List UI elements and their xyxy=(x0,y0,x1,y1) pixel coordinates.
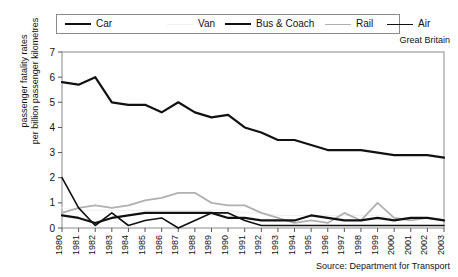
x-tick-label: 2001 xyxy=(403,235,413,255)
series-line-air xyxy=(62,178,444,228)
x-tick-label: 1991 xyxy=(237,235,247,255)
x-tick-label: 1986 xyxy=(154,235,164,255)
x-tick-label: 1985 xyxy=(137,235,147,255)
x-tick-label: 1987 xyxy=(170,235,180,255)
y-tick-label: 1 xyxy=(49,197,55,208)
x-tick-label: 2003 xyxy=(436,235,446,255)
fatality-rates-chart: CarVanBus & CoachRailAir Great Britain p… xyxy=(0,0,458,277)
x-tick-label: 1995 xyxy=(303,235,313,255)
x-tick-label: 1997 xyxy=(336,235,346,255)
x-tick-label: 1988 xyxy=(187,235,197,255)
x-tick-label: 1992 xyxy=(253,235,263,255)
source-annotation: Source: Department for Transport xyxy=(316,261,450,271)
x-tick-label: 1980 xyxy=(54,235,64,255)
x-tick-label: 2002 xyxy=(419,235,429,255)
x-tick-label: 1990 xyxy=(220,235,230,255)
y-tick-label: 2 xyxy=(49,172,55,183)
x-tick-label: 1981 xyxy=(71,235,81,255)
y-tick-label: 7 xyxy=(49,47,55,58)
x-tick-label: 1993 xyxy=(270,235,280,255)
plot-area: 0123456719801981198219831984198519861987… xyxy=(0,0,458,277)
x-tick-label: 1982 xyxy=(87,235,97,255)
series-line-car xyxy=(62,77,444,157)
x-tick-label: 1998 xyxy=(353,235,363,255)
x-tick-label: 1999 xyxy=(370,235,380,255)
x-tick-label: 2000 xyxy=(386,235,396,255)
y-tick-label: 4 xyxy=(49,122,55,133)
y-tick-label: 5 xyxy=(49,97,55,108)
x-tick-label: 1996 xyxy=(320,235,330,255)
x-tick-label: 1983 xyxy=(104,235,114,255)
x-tick-label: 1989 xyxy=(203,235,213,255)
y-tick-label: 6 xyxy=(49,72,55,83)
x-tick-label: 1994 xyxy=(287,235,297,255)
plot-frame xyxy=(62,52,444,228)
y-tick-label: 3 xyxy=(49,147,55,158)
y-tick-label: 0 xyxy=(49,223,55,234)
plot-svg: 0123456719801981198219831984198519861987… xyxy=(0,0,458,277)
x-tick-label: 1984 xyxy=(120,235,130,255)
